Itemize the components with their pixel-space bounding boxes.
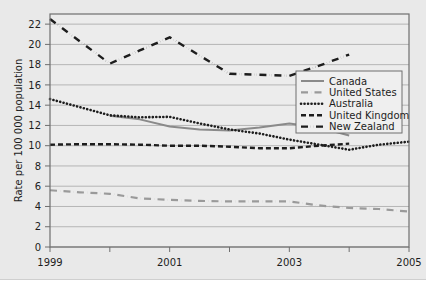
footer-strip — [0, 280, 426, 290]
chart-figure: 0246810121416182022 1999200120032005 Rat… — [0, 0, 426, 290]
y-tick-label: 14 — [28, 100, 41, 111]
y-axis-title: Rate per 100 000 population — [13, 59, 24, 203]
y-tick-label: 22 — [28, 19, 41, 30]
y-tick-label: 0 — [35, 242, 41, 253]
x-tick-label: 1999 — [37, 257, 62, 268]
line-chart: 0246810121416182022 1999200120032005 Rat… — [0, 0, 426, 290]
y-tick-label: 4 — [35, 201, 41, 212]
y-tick-label: 12 — [28, 120, 41, 131]
legend-label: New Zealand — [329, 121, 395, 132]
chart-legend: CanadaUnited StatesAustraliaUnited Kingd… — [296, 71, 409, 133]
y-axis-label: Rate per 100 000 population — [13, 59, 24, 203]
y-tick-label: 16 — [28, 80, 41, 91]
legend-label: United States — [329, 87, 397, 98]
y-tick-label: 2 — [35, 221, 41, 232]
x-tick-label: 2003 — [277, 257, 302, 268]
x-axis-ticks: 1999200120032005 — [37, 247, 421, 268]
legend-label: Canada — [329, 76, 367, 87]
y-tick-label: 18 — [28, 59, 41, 70]
y-tick-label: 10 — [28, 140, 41, 151]
y-axis-ticks: 0246810121416182022 — [28, 19, 50, 253]
legend-label: United Kingdom — [329, 110, 409, 121]
y-tick-label: 20 — [28, 39, 41, 50]
legend-label: Australia — [329, 98, 373, 109]
y-tick-label: 6 — [35, 181, 41, 192]
y-tick-label: 8 — [35, 161, 41, 172]
x-tick-label: 2005 — [396, 257, 421, 268]
x-tick-label: 2001 — [157, 257, 182, 268]
